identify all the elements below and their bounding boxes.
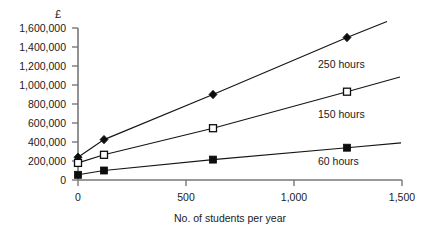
series-line-250-hours xyxy=(78,22,387,158)
y-axis-label-0: 0 xyxy=(2,174,66,186)
marker-150-hours-1 xyxy=(101,151,108,158)
marker-250-hours-1 xyxy=(100,135,108,143)
marker-60-hours-0 xyxy=(75,171,82,178)
y-axis-label-400000: 400,000 xyxy=(2,136,66,148)
x-axis-title: No. of students per year xyxy=(140,212,320,224)
x-axis-label-500: 500 xyxy=(161,191,211,203)
y-axis-title: £ xyxy=(55,8,61,20)
line-chart: £ 1,600,000 1,400,000 1,200,000 1,000,00… xyxy=(0,0,428,236)
x-axis-label-1500: 1,500 xyxy=(377,191,427,203)
y-axis-label-1000000: 1,000,000 xyxy=(2,79,66,91)
series-label-60-hours: 60 hours xyxy=(318,155,359,167)
marker-250-hours-3 xyxy=(343,33,351,41)
marker-60-hours-1 xyxy=(101,167,108,174)
marker-60-hours-3 xyxy=(344,144,351,151)
marker-150-hours-3 xyxy=(344,88,351,95)
y-axis-label-1200000: 1,200,000 xyxy=(2,60,66,72)
marker-60-hours-2 xyxy=(210,156,217,163)
y-axis-label-800000: 800,000 xyxy=(2,98,66,110)
y-axis-label-200000: 200,000 xyxy=(2,155,66,167)
series-label-150-hours: 150 hours xyxy=(318,108,365,120)
x-axis-label-1000: 1,000 xyxy=(269,191,319,203)
series-label-250-hours: 250 hours xyxy=(318,58,365,70)
y-axis-label-600000: 600,000 xyxy=(2,117,66,129)
y-axis-label-1600000: 1,600,000 xyxy=(2,22,66,34)
y-axis-label-1400000: 1,400,000 xyxy=(2,41,66,53)
marker-150-hours-2 xyxy=(210,125,217,132)
x-axis-label-0: 0 xyxy=(53,191,103,203)
marker-150-hours-0 xyxy=(75,159,82,166)
marker-250-hours-2 xyxy=(209,90,217,98)
